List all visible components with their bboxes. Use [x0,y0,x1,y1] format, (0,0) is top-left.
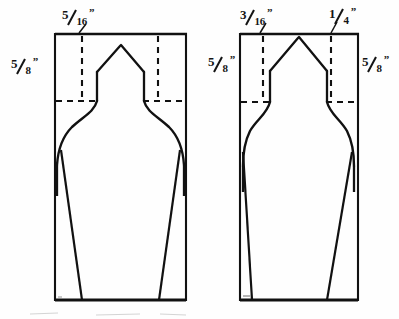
right-top-right-width-label: 14” [329,8,356,24]
right-shoulder-right [327,102,354,166]
right-pattern-group [240,22,359,300]
pattern-drawing [0,0,399,319]
left-taper-right [159,150,180,300]
right-arch-peak [270,37,327,71]
right-top-left-width-denominator: 16 [255,15,265,27]
right-top-left-width-label: 316” [240,9,272,25]
right-left-height-inch-mark: ” [230,53,236,65]
right-right-height-denominator: 8 [377,62,382,74]
right-top-left-width-inch-mark: ” [267,6,273,18]
right-left-height-label: 58” [208,56,235,72]
right-left-height-denominator: 8 [223,62,228,74]
left-arch-peak [97,45,144,72]
left-side-height-label: 58” [11,58,38,74]
left-shoulder-left [57,101,97,165]
left-side-height-denominator: 8 [26,64,31,76]
left-taper-left [61,150,82,300]
left-side-height-inch-mark: ” [33,55,39,67]
right-taper-right [327,152,352,300]
right-right-height-inch-mark: ” [384,53,390,65]
left-top-width-label: 516” [62,9,94,25]
left-shoulder-right [144,101,184,165]
left-pattern-group [55,24,187,300]
right-shoulder-left [243,102,270,166]
left-top-width-denominator: 16 [77,15,87,27]
right-taper-left [243,152,252,300]
right-top-right-width-denominator: 4 [344,14,349,26]
right-top-right-width-inch-mark: ” [351,5,357,17]
left-outer-rectangle [55,34,186,300]
left-top-width-inch-mark: ” [89,6,95,18]
right-outer-rectangle [240,34,358,300]
drawing-sheet: 516” 58” 316” 14” 58” 58” [0,0,399,319]
right-right-height-label: 58” [362,56,389,72]
